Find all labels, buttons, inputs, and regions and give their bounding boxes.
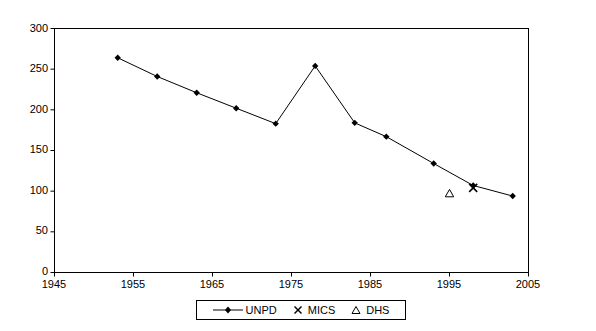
x-tick-label: 1945 (34, 278, 74, 290)
legend-label-mics: MICS (308, 305, 336, 316)
y-tick-label: 50 (14, 224, 48, 236)
x-tick-label: 1975 (271, 278, 311, 290)
x-tick-label: 1955 (113, 278, 153, 290)
y-tick-label: 200 (14, 103, 48, 115)
x-tick-label: 1965 (192, 278, 232, 290)
line-with-diamond-marker-icon (213, 305, 243, 315)
x-cross-marker-icon (291, 305, 305, 315)
x-tick-label: 1995 (429, 278, 469, 290)
y-tick-label: 250 (14, 62, 48, 74)
y-tick-label: 150 (14, 143, 48, 155)
chart-container: 300 250 200 150 100 50 0 1945 1955 1965 … (0, 0, 596, 331)
legend-item-mics: MICS (291, 305, 336, 316)
legend-label-unpd: UNPD (246, 305, 277, 316)
x-axis-ticks (55, 273, 529, 277)
plot-frame (55, 29, 529, 273)
legend-item-unpd: UNPD (213, 305, 277, 316)
legend-label-dhs: DHS (366, 305, 389, 316)
open-triangle-marker-icon (349, 305, 363, 315)
y-tick-label: 0 (14, 265, 48, 277)
y-tick-label: 300 (14, 22, 48, 34)
x-tick-label: 1985 (350, 278, 390, 290)
legend-item-dhs: DHS (349, 305, 389, 316)
y-tick-label: 100 (14, 184, 48, 196)
chart-legend: UNPD MICS DHS (196, 300, 406, 320)
x-tick-label: 2005 (508, 278, 548, 290)
y-axis-ticks (51, 29, 55, 273)
